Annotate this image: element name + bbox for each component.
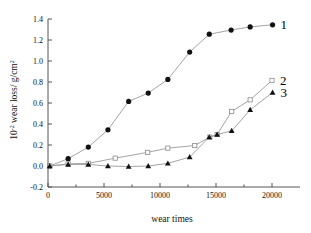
y-tick-label: 0.8 bbox=[33, 78, 43, 87]
series-1 bbox=[47, 22, 275, 168]
data-point bbox=[270, 78, 274, 82]
y-axis-title-mid: wear loss/ g/cm bbox=[9, 63, 19, 126]
series-labels: 123 bbox=[280, 17, 287, 100]
series-label-3[interactable]: 3 bbox=[281, 85, 288, 100]
chart-figure: 05000100001500020000 -0.20.00.20.40.60.8… bbox=[0, 0, 311, 233]
y-tick-label: -0.2 bbox=[30, 183, 43, 192]
data-point bbox=[248, 24, 253, 29]
data-point bbox=[105, 127, 110, 132]
data-point bbox=[229, 27, 234, 32]
data-point bbox=[270, 22, 275, 27]
y-tick-label: 0.0 bbox=[33, 162, 43, 171]
y-tick-label: 0.6 bbox=[33, 99, 43, 108]
y-tick-label: 1.0 bbox=[33, 57, 43, 66]
data-point bbox=[126, 99, 131, 104]
x-tick-label: 5000 bbox=[96, 191, 112, 200]
data-point bbox=[146, 90, 151, 95]
data-point bbox=[207, 32, 212, 37]
y-tick-labels: -0.20.00.20.40.60.81.01.21.4 bbox=[30, 15, 43, 192]
x-tick-label: 20000 bbox=[262, 191, 282, 200]
y-axis-title-exponent2: 2 bbox=[9, 60, 15, 63]
y-tick-label: 1.4 bbox=[33, 15, 43, 24]
y-tick-label: 0.2 bbox=[33, 141, 43, 150]
x-tick-labels: 05000100001500020000 bbox=[46, 191, 282, 200]
wear-loss-line-chart: 05000100001500020000 -0.20.00.20.40.60.8… bbox=[0, 0, 311, 233]
x-axis-title: wear times bbox=[151, 214, 193, 224]
data-point bbox=[193, 143, 197, 147]
tick-marks bbox=[48, 19, 272, 187]
data-point bbox=[187, 49, 192, 54]
data-point bbox=[66, 156, 71, 161]
series-2 bbox=[48, 78, 275, 168]
x-tick-label: 10000 bbox=[150, 191, 170, 200]
x-tick-label: 15000 bbox=[206, 191, 226, 200]
data-point bbox=[166, 146, 170, 150]
data-series bbox=[47, 22, 276, 169]
data-point bbox=[230, 109, 234, 113]
y-tick-label: 1.2 bbox=[33, 36, 43, 45]
data-point bbox=[270, 90, 276, 95]
data-point bbox=[113, 156, 117, 160]
series-label-1[interactable]: 1 bbox=[281, 17, 288, 32]
data-point bbox=[247, 107, 253, 112]
series-line-3 bbox=[50, 93, 273, 167]
y-axis-title: 10-2 wear loss/ g/cm2 bbox=[9, 60, 19, 140]
data-point bbox=[165, 77, 170, 82]
data-point bbox=[248, 98, 252, 102]
y-tick-label: 0.4 bbox=[33, 120, 43, 129]
data-point bbox=[146, 150, 150, 154]
series-line-1 bbox=[50, 25, 273, 166]
series-3 bbox=[47, 90, 276, 169]
data-point bbox=[86, 145, 91, 150]
x-tick-label: 0 bbox=[46, 191, 50, 200]
y-axis-title-base: 10 bbox=[9, 130, 19, 140]
svg-text:10-2 wear loss/ g/cm2: 10-2 wear loss/ g/cm2 bbox=[9, 60, 19, 140]
